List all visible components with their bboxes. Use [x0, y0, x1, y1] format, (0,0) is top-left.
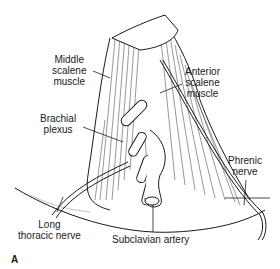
label-brachial-plexus: Brachial plexus — [40, 113, 76, 135]
anatomy-figure: Middle scalene muscle Anterior scalene m… — [0, 0, 280, 269]
panel-letter: A — [11, 254, 18, 265]
label-phrenic-nerve: Phrenic nerve — [228, 155, 262, 177]
label-long-thoracic-nerve: Long thoracic nerve — [18, 219, 81, 241]
label-middle-scalene-muscle: Middle scalene muscle — [52, 54, 86, 87]
label-subclavian-artery: Subclavian artery — [112, 234, 189, 245]
label-anterior-scalene-muscle: Anterior scalene muscle — [185, 66, 220, 99]
